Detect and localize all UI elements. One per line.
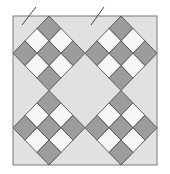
- quilt-diagram: [0, 0, 170, 174]
- quilt-diagram-canvas: [0, 0, 170, 174]
